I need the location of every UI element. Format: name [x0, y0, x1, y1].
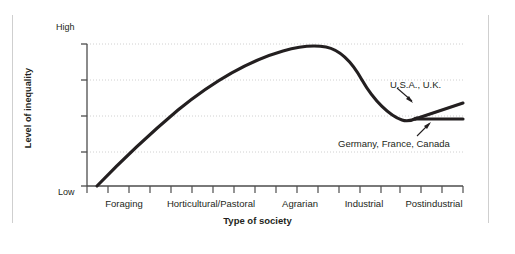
y-axis-low-label: Low — [58, 187, 75, 198]
x-tick-label-agrarian: Agrarian — [282, 198, 318, 209]
x-axis-ticks — [87, 186, 463, 193]
y-axis-high-label: High — [56, 22, 75, 33]
y-axis-title: Level of inequality — [23, 53, 33, 163]
annotation-label-germany-france-canada: Germany, France, Canada — [338, 138, 450, 149]
x-tick-label-postindustrial: Postindustrial — [405, 198, 462, 209]
y-axis-ticks — [81, 44, 87, 186]
inequality-by-society-chart: High Low Level of inequality Foraging Ho… — [0, 0, 515, 254]
annotation-arrow-usa-uk — [397, 88, 413, 103]
x-tick-label-horticultural-pastoral: Horticultural/Pastoral — [167, 198, 255, 209]
annotation-arrow-germany-france-canada — [417, 122, 431, 136]
series-line-usa-uk — [415, 103, 463, 119]
annotation-label-usa-uk: U.S.A., U.K. — [390, 79, 441, 90]
x-tick-label-foraging: Foraging — [105, 198, 143, 209]
x-tick-label-industrial: Industrial — [345, 198, 384, 209]
x-axis-title: Type of society — [0, 215, 515, 226]
